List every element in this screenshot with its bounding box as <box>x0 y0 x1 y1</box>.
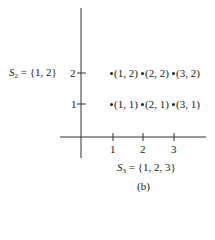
point-dot <box>172 72 175 75</box>
x-tick-label-1: 1 <box>110 144 116 155</box>
caption: (b) <box>137 181 150 192</box>
x-set-label: S3 = {1, 2, 3} <box>117 162 176 177</box>
x-tick-label-3: 3 <box>171 144 177 155</box>
point-dot <box>141 103 144 106</box>
point-dot <box>110 72 113 75</box>
point-1-1: (1, 1) <box>110 99 138 110</box>
point-dot <box>141 72 144 75</box>
y-set-label: S2 = {1, 2} <box>9 67 57 82</box>
point-dot <box>172 103 175 106</box>
y-tick-label-2: 2 <box>70 68 76 79</box>
point-3-1: (3, 1) <box>172 99 200 110</box>
y-tick-label-1: 1 <box>71 99 77 110</box>
x-tick-label-2: 2 <box>140 144 146 155</box>
point-dot <box>110 103 113 106</box>
point-1-2: (1, 2) <box>110 68 138 79</box>
point-2-2: (2, 2) <box>141 68 169 79</box>
point-3-2: (3, 2) <box>172 68 200 79</box>
point-2-1: (2, 1) <box>141 99 169 110</box>
